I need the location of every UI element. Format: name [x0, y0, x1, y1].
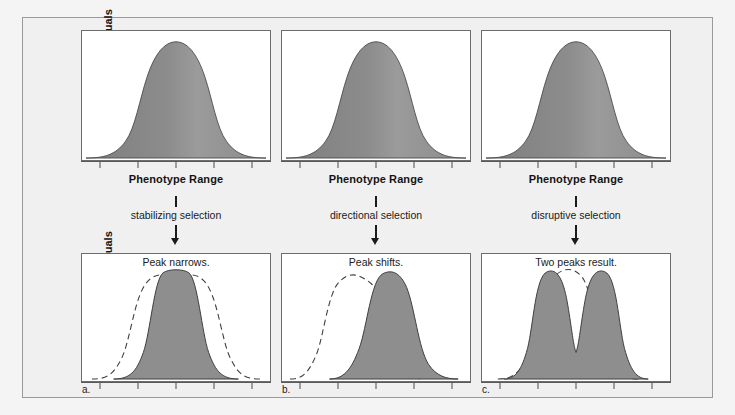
- x-axis-ticks-bottom: [281, 382, 471, 391]
- distribution-curve-original: [86, 42, 266, 158]
- x-axis-label-top: Phenotype Range: [281, 173, 471, 185]
- top-plot-panel-stabilizing: [81, 30, 271, 161]
- x-axis-label-top: Phenotype Range: [81, 173, 271, 185]
- column-stabilizing: Number of Individuals: [81, 18, 291, 397]
- distribution-curve-result: [329, 272, 458, 379]
- column-disruptive: Phenotype Range disruptive selection Two…: [481, 18, 691, 397]
- panel-letter: a.: [82, 384, 90, 395]
- bottom-plot-panel-disruptive: [481, 253, 671, 382]
- arrow-head-icon: [171, 238, 179, 245]
- column-directional: Number of Individuals: [281, 18, 491, 397]
- top-plot-panel-disruptive: [481, 30, 671, 161]
- panel-letter: c.: [482, 384, 490, 395]
- top-plot-panel-directional: [281, 30, 471, 161]
- arrow-stem-upper: [175, 196, 177, 207]
- selection-type-label: disruptive selection: [481, 209, 671, 221]
- arrow-head-icon: [371, 238, 379, 245]
- selection-type-label: directional selection: [281, 209, 471, 221]
- x-axis-ticks-top: [281, 161, 471, 170]
- transition-arrow-directional: directional selection: [281, 196, 471, 250]
- bottom-plot-panel-directional: [281, 253, 471, 382]
- x-axis-ticks-bottom: [81, 382, 271, 391]
- x-axis-label-top: Phenotype Range: [481, 173, 671, 185]
- figure-frame: Number of Individuals: [22, 17, 713, 398]
- selection-type-label: stabilizing selection: [81, 209, 271, 221]
- x-axis-ticks-top: [81, 161, 271, 170]
- distribution-curve-result: [114, 270, 239, 379]
- arrow-stem-upper: [575, 196, 577, 207]
- distribution-curve-original: [486, 42, 666, 158]
- arrow-head-icon: [571, 238, 579, 245]
- distribution-curve-original: [286, 42, 466, 158]
- x-axis-ticks-bottom: [481, 382, 671, 391]
- bottom-plot-panel-stabilizing: [81, 253, 271, 382]
- transition-arrow-disruptive: disruptive selection: [481, 196, 671, 250]
- distribution-curve-result: [504, 271, 648, 379]
- arrow-stem-upper: [375, 196, 377, 207]
- x-axis-ticks-top: [481, 161, 671, 170]
- panel-letter: b.: [282, 384, 290, 395]
